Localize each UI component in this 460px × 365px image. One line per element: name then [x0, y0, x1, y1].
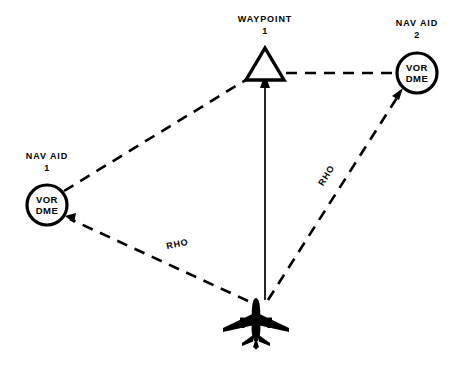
- edge-aircraft-to-navaid1: [70, 219, 248, 301]
- arrowhead-navaid2: [392, 88, 403, 100]
- nav-aid-waypoint-diagram: RHO RHO VOR DME VOR DME: [0, 0, 460, 365]
- waypoint-triangle-icon: [246, 48, 284, 80]
- nav-aid-1-vor-text: VOR: [36, 194, 58, 205]
- diagram-canvas: RHO RHO VOR DME VOR DME: [0, 0, 460, 365]
- nav-aid-1-label-number: 1: [26, 163, 68, 175]
- nav-aid-1-dme-text: DME: [36, 205, 58, 216]
- nav-aid-2-label-title: NAV AID: [396, 18, 438, 28]
- waypoint-label: WAYPOINT 1: [238, 14, 292, 38]
- nav-aid-1-label-title: NAV AID: [26, 151, 68, 161]
- waypoint-label-number: 1: [238, 26, 292, 38]
- nav-aid-2-label: NAV AID 2: [396, 18, 438, 42]
- edge-aircraft-to-navaid2: [268, 93, 400, 300]
- nav-aid-2-vor-text: VOR: [406, 62, 428, 73]
- waypoint-label-title: WAYPOINT: [238, 14, 292, 24]
- nav-aid-1-label: NAV AID 1: [26, 151, 68, 175]
- rho-label-navaid1: RHO: [165, 237, 189, 251]
- nav-aid-2-dme-text: DME: [406, 73, 428, 84]
- rho-label-navaid2: RHO: [316, 163, 336, 187]
- nav-aid-2-label-number: 2: [396, 30, 438, 42]
- edge-navaid1-to-waypoint: [64, 78, 249, 191]
- aircraft-icon: [223, 298, 289, 350]
